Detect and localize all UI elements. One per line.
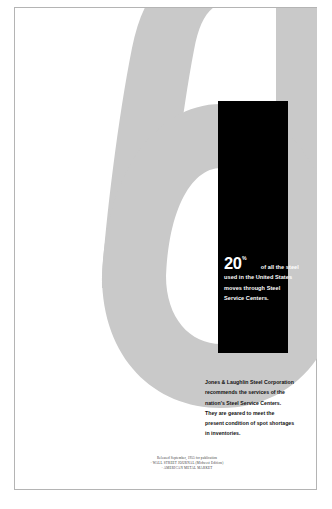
percent-number: 20 — [224, 254, 242, 272]
body-line-3: nation's Steel Service Centers. — [205, 398, 317, 408]
headline-line-2: used in the United States — [224, 272, 290, 282]
body-line-2: recommends the services of the — [205, 387, 317, 397]
advertisement-poster: 20%of all the steel used in the United S… — [0, 0, 332, 509]
body-line-1: Jones & Laughlin Steel Corporation — [205, 377, 317, 387]
percent-figure: 20% — [224, 255, 247, 272]
fine-print-line-3: · AMERICAN METAL MARKET — [127, 466, 247, 471]
percent-sign: % — [242, 255, 247, 261]
headline-line-1-text: of all the steel — [261, 264, 299, 270]
body-line-5: present condition of spot shortages — [205, 418, 317, 428]
headline-block: 20%of all the steel used in the United S… — [224, 258, 290, 304]
body-line-6: in inventories. — [205, 428, 317, 438]
body-line-4: They are geared to meet the — [205, 408, 317, 418]
fine-print-block: Released September, 1955 for publication… — [127, 456, 247, 471]
headline-line-4: Service Centers. — [224, 293, 290, 303]
headline-line-3: moves through Steel — [224, 283, 290, 293]
black-panel — [218, 101, 288, 353]
body-copy: Jones & Laughlin Steel Corporation recom… — [205, 377, 317, 439]
headline-line-1: 20%of all the steel — [224, 255, 290, 272]
